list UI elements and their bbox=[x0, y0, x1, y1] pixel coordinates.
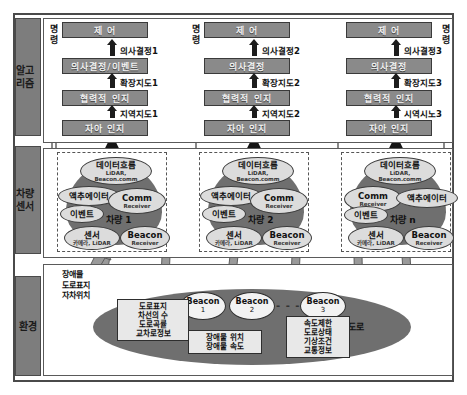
vehicle-2-dataflow-sub2: Beacon.comm bbox=[236, 176, 279, 182]
decision-box-3[interactable]: 의사결정 bbox=[346, 58, 432, 74]
beacon-2-title: Beacon bbox=[236, 298, 269, 306]
ego-box-3-label: 자아 인지 bbox=[369, 122, 409, 135]
coop-to-decision-arrow-1 bbox=[110, 78, 115, 88]
edge-label-extmap-2: 확장지도2 bbox=[262, 76, 300, 88]
decision-box-3-label: 의사결정 bbox=[371, 60, 407, 73]
control-box-1[interactable]: 제 어 bbox=[62, 22, 148, 38]
vehicle-n-event-label: 이벤트 bbox=[354, 211, 378, 220]
vehicle-n-dataflow-sub2: Beacon.comm bbox=[378, 176, 421, 182]
vehicle-2-event-label: 이벤트 bbox=[212, 210, 236, 219]
vehicle-n-name: 차량 n bbox=[390, 213, 416, 226]
cooperative-box-2[interactable]: 협력적 인지 bbox=[204, 90, 290, 106]
control-box-2-label: 제 어 bbox=[236, 24, 258, 37]
control-box-2[interactable]: 제 어 bbox=[204, 22, 290, 38]
vehicle-2-comm-receiver[interactable]: Comm Receiver bbox=[250, 188, 308, 214]
edge-label-decision-3: 의사결정3 bbox=[404, 44, 442, 56]
ego-box-3[interactable]: 자아 인지 bbox=[346, 120, 432, 136]
sidebar-item-vehicle-sensor[interactable]: 차량센서 bbox=[15, 146, 41, 254]
vehicle-2-event[interactable]: 이벤트 bbox=[202, 205, 246, 223]
obstacle-info-box: 장애물 위치 장애물 속도 bbox=[188, 330, 262, 354]
vehicle-n-comm-title: Comm bbox=[358, 192, 388, 201]
ego-box-1[interactable]: 자아 인지 bbox=[62, 120, 148, 136]
vehicle-2-beacon-sub: Receiver bbox=[274, 240, 301, 246]
beacon-3-title: Beacon bbox=[307, 298, 340, 306]
decision-box-2-label: 의사결정 bbox=[229, 60, 265, 73]
vehicle-2-dataflow-title: 데이터흐름 bbox=[238, 161, 278, 170]
vehicle-n-actuator-label: 액추에이터 bbox=[407, 194, 447, 203]
vehicle-1-name: 차량 1 bbox=[106, 213, 131, 226]
vehicle-1-sensor-sub: 카메라, LiDAR bbox=[73, 240, 110, 246]
sidebar-label-algorithm: 알고리즘 bbox=[16, 64, 40, 90]
cooperative-box-1[interactable]: 협력적 인지 bbox=[62, 90, 148, 106]
command-label-right: 명령 bbox=[440, 24, 451, 46]
edge-label-extmap-1: 확장지도1 bbox=[120, 76, 158, 88]
control-box-3[interactable]: 제 어 bbox=[346, 22, 432, 38]
command-label-left: 명령 bbox=[48, 24, 59, 46]
cooperative-box-3-label: 협력적 인지 bbox=[364, 92, 413, 105]
edge-label-decision-1: 의사결정1 bbox=[120, 44, 158, 56]
vehicle-2-actuator-label: 액추에이터 bbox=[211, 192, 251, 201]
sidebar-label-environment: 환경 bbox=[19, 320, 37, 333]
vehicle-n-beacon-receiver[interactable]: Beacon Receiver bbox=[404, 226, 454, 250]
ego-box-2-label: 자아 인지 bbox=[227, 122, 267, 135]
vehicle-2-comm-sub: Receiver bbox=[266, 203, 293, 209]
vehicle-2-name: 차량 2 bbox=[248, 213, 273, 226]
decision-box-2[interactable]: 의사결정 bbox=[204, 58, 290, 74]
beacon-1-title: Beacon bbox=[187, 298, 220, 306]
decision-to-control-arrow-1 bbox=[110, 44, 115, 56]
sidebar-label-vehicle-sensor: 차량센서 bbox=[16, 187, 40, 213]
ego-to-coop-arrow-1 bbox=[110, 110, 115, 118]
vehicle-1-dataflow-title: 데이터흐름 bbox=[96, 161, 136, 170]
cooperative-box-1-label: 협력적 인지 bbox=[80, 92, 129, 105]
vehicle-n-dataflow[interactable]: 데이터흐름 LiDAR, Beacon.comm bbox=[364, 157, 436, 185]
command-label-middle: 명령 bbox=[190, 24, 201, 46]
diagram-root: 알고리즘 차량센서 환경 명령 제 어 의사결정1 의사결정/이벤트 확장지도1… bbox=[0, 0, 467, 395]
vehicle-2-dataflow[interactable]: 데이터흐름 LiDAR, Beacon.comm bbox=[222, 157, 294, 185]
vehicle-n-sensor-sub: 카메라, LiDAR bbox=[357, 240, 394, 246]
vehicle-1-actuator-label: 액추에이터 bbox=[69, 192, 109, 201]
vehicle-2-sensor[interactable]: 센서 카메라, LiDAR bbox=[206, 226, 262, 250]
decision-box-1-label: 의사결정/이벤트 bbox=[71, 60, 138, 73]
vehicle-n-sensor-title: 센서 bbox=[368, 231, 384, 240]
road-info-box: 도로표지 차선의 수 도로곡률 교차로정보 bbox=[117, 299, 189, 341]
ego-to-coop-arrow-3 bbox=[394, 110, 399, 118]
vehicle-1-beacon-title: Beacon bbox=[128, 231, 163, 240]
vehicle-1-event-label: 이벤트 bbox=[70, 210, 94, 219]
road-label: 도로 bbox=[348, 320, 364, 333]
beacon-ellipsis: - - - bbox=[276, 300, 300, 311]
coop-to-decision-arrow-3 bbox=[394, 78, 399, 88]
sidebar-item-environment[interactable]: 환경 bbox=[15, 276, 41, 376]
cooperative-box-2-label: 협력적 인지 bbox=[222, 92, 271, 105]
vehicle-1-sensor[interactable]: 센서 카메라, LiDAR bbox=[64, 226, 120, 250]
vehicle-2-sensor-title: 센서 bbox=[226, 231, 242, 240]
vehicle-n-beacon-title: Beacon bbox=[412, 231, 447, 240]
beacon-2[interactable]: Beacon 2 bbox=[229, 292, 275, 320]
vehicle-2-beacon-title: Beacon bbox=[270, 231, 305, 240]
ego-box-2[interactable]: 자아 인지 bbox=[204, 120, 290, 136]
vehicle-1-comm-receiver[interactable]: Comm Receiver bbox=[108, 188, 166, 214]
beacon-3-number: 3 bbox=[321, 306, 325, 314]
cooperative-box-3[interactable]: 협력적 인지 bbox=[346, 90, 432, 106]
traffic-info-box: 속도제한 도로상태 기상조건 교통정보 bbox=[286, 316, 350, 358]
sidebar-item-algorithm[interactable]: 알고리즘 bbox=[15, 18, 41, 136]
vehicle-1-dataflow[interactable]: 데이터흐름 LiDAR, Beacon.comm bbox=[80, 157, 152, 185]
decision-box-1[interactable]: 의사결정/이벤트 bbox=[62, 58, 148, 74]
vehicle-1-dataflow-sub2: Beacon.comm bbox=[94, 176, 137, 182]
decision-to-control-arrow-3 bbox=[394, 44, 399, 56]
vehicle-1-comm-sub: Receiver bbox=[124, 203, 151, 209]
ego-to-coop-arrow-2 bbox=[252, 110, 257, 118]
vehicle-1-beacon-sub: Receiver bbox=[132, 240, 159, 246]
vehicle-n-actuator[interactable]: 액추에이터 bbox=[396, 188, 458, 208]
command-label-middle-text: 명령 bbox=[192, 24, 200, 45]
coop-to-decision-arrow-2 bbox=[252, 78, 257, 88]
vehicle-2-beacon-receiver[interactable]: Beacon Receiver bbox=[262, 226, 312, 250]
beacon-1-number: 1 bbox=[201, 306, 205, 314]
decision-to-control-arrow-2 bbox=[252, 44, 257, 56]
edge-label-localmap-2: 지역지도2 bbox=[262, 107, 300, 119]
vehicle-n-dataflow-title: 데이터흐름 bbox=[380, 161, 420, 170]
vehicle-1-event[interactable]: 이벤트 bbox=[60, 205, 104, 223]
vehicle-n-sensor[interactable]: 센서 카메라, LiDAR bbox=[348, 226, 404, 250]
beacon-2-number: 2 bbox=[250, 306, 254, 314]
vehicle-1-beacon-receiver[interactable]: Beacon Receiver bbox=[120, 226, 170, 250]
vehicle-n-event[interactable]: 이벤트 bbox=[344, 206, 388, 224]
